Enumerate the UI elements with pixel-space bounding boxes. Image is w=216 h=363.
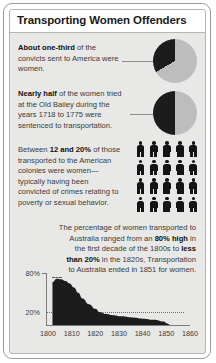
block4-lead: 80% high [155, 234, 188, 243]
person-icon [176, 197, 185, 213]
x-tick-label: 1820 [87, 329, 103, 338]
area-series [46, 273, 190, 325]
text-block-convicts-to-america: About one-third of the convicts sent to … [18, 43, 120, 75]
australia-transport-chart: 80% 20% 1800 1810 1820 1830 1840 [18, 269, 198, 347]
person-icon [136, 178, 145, 194]
x-tick-label: 1850 [158, 329, 174, 338]
x-tick-label: 1860 [182, 329, 198, 338]
person-icon [162, 160, 171, 176]
person-icon [149, 141, 158, 157]
y-tick-label-80: 80% [18, 269, 40, 278]
person-icon [136, 197, 145, 213]
convicts-america-pie [153, 39, 197, 83]
person-icon [136, 160, 145, 176]
person-icon [149, 197, 158, 213]
x-tick-label: 1800 [40, 329, 56, 338]
old-bailey-pie [153, 91, 197, 135]
person-icon [149, 160, 158, 176]
person-icon [176, 178, 185, 194]
y-tick-label-20: 20% [18, 308, 40, 317]
person-icon [189, 141, 198, 157]
chart-plot-area [46, 273, 190, 325]
x-tick-label: 1810 [64, 329, 80, 338]
infographic-root: Transporting Women Offenders About one-t… [0, 0, 216, 363]
person-icon [162, 141, 171, 157]
person-icon [189, 160, 198, 176]
person-icon [162, 197, 171, 213]
person-icon [149, 178, 158, 194]
block1-lead: About one-third [18, 43, 75, 52]
body-area: About one-third of the convicts sent to … [10, 33, 205, 354]
page-title: Transporting Women Offenders [17, 14, 187, 26]
x-axis [46, 325, 190, 326]
block3-rest: of those transported to the American col… [18, 145, 120, 207]
women-transported-pictogram [134, 141, 202, 215]
person-icon [189, 197, 198, 213]
title-bar: Transporting Women Offenders [10, 10, 205, 33]
person-icon [162, 178, 171, 194]
x-tick-label: 1840 [135, 329, 151, 338]
person-icon [136, 141, 145, 157]
person-icon [176, 160, 185, 176]
block2-lead: Nearly half [18, 89, 57, 98]
text-block-american-colonies: Between 12 and 20% of those transported … [18, 145, 122, 209]
block3-pre: Between [18, 145, 50, 154]
person-icon [176, 141, 185, 157]
x-axis-labels: 1800 1810 1820 1830 1840 1850 1860 [40, 329, 198, 338]
x-tick-label: 1830 [111, 329, 127, 338]
infographic-panel: Transporting Women Offenders About one-t… [9, 9, 206, 354]
block3-lead: 12 and 20% [50, 145, 91, 154]
text-block-old-bailey: Nearly half of the women tried at the Ol… [18, 89, 128, 131]
person-icon [189, 178, 198, 194]
